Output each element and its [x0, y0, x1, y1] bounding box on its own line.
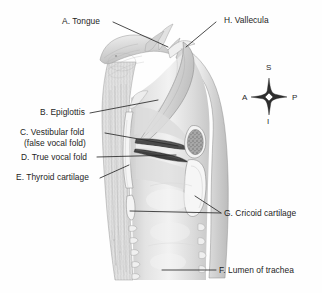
- label-vestibular-fold-sub: (false vocal fold): [24, 138, 86, 149]
- label-cricoid-cartilage: G. Cricoid cartilage: [224, 208, 296, 219]
- label-true-vocal-fold: D. True vocal fold: [21, 152, 87, 163]
- label-epiglottis: B. Epiglottis: [40, 107, 85, 118]
- label-vallecula: H. Vallecula: [224, 15, 269, 26]
- compass-label-anterior: A: [242, 94, 247, 102]
- compass-label-superior: S: [266, 64, 271, 72]
- label-lumen-of-trachea: F. Lumen of trachea: [219, 265, 294, 276]
- label-tongue: A. Tongue: [62, 16, 100, 27]
- leader-line-vallecula: [186, 22, 216, 47]
- label-vestibular-fold: C. Vestibular fold: [20, 127, 84, 138]
- anatomy-figure: S I A P A. Tongue H. Vallecula B. Epiglo…: [0, 0, 322, 293]
- cricoid-cartilage-arch: [126, 195, 135, 220]
- compass-label-inferior: I: [267, 118, 269, 126]
- compass-label-posterior: P: [292, 94, 297, 102]
- arytenoid-stipple: [187, 129, 203, 154]
- label-thyroid-cartilage: E. Thyroid cartilage: [16, 172, 89, 183]
